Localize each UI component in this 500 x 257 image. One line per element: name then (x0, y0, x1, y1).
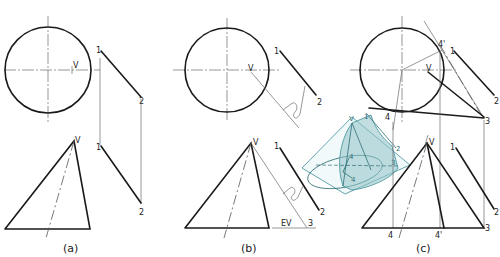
apex-label-top: V (73, 61, 79, 70)
apex-label-front: V (429, 138, 435, 147)
point-4p-label-top: 4' (438, 40, 445, 49)
apex-label-top: V (426, 64, 432, 73)
line-1-2-front (101, 146, 141, 203)
point-2-label-front: 2 (494, 208, 499, 217)
panel-a-front-view: V 1 2 (5, 136, 144, 238)
parallel-through-apex (251, 72, 299, 128)
radial-line-4 (393, 70, 402, 130)
point-2-label-top: 2 (494, 97, 499, 106)
parallel-symbol-front (283, 186, 303, 200)
point-2-label-front: 2 (320, 208, 325, 217)
line-1-2-front (456, 148, 494, 209)
cone-element-line (46, 141, 74, 238)
cone-front-triangle (5, 141, 90, 229)
plane-trace-line (424, 21, 484, 118)
point-2-label-top: 2 (317, 98, 322, 107)
pictorial-point-4-label: 4 (349, 153, 354, 161)
apex-label-top: V (248, 64, 254, 73)
cone-element-line (399, 143, 427, 238)
point-1-label-front: 1 (450, 143, 455, 152)
apex-label-front: V (75, 136, 81, 145)
point-1-label-front: 1 (96, 143, 101, 152)
pictorial-apex-label: V (349, 115, 354, 123)
cone-front-triangle (185, 143, 269, 228)
apex-label-front: V (253, 138, 259, 147)
pictorial-point-1-label: 1 (364, 113, 368, 121)
point-2-label-top: 2 (139, 97, 144, 106)
cone-line-intersection-figure: V 1 2 V 1 2 (a) V 1 2 (0, 0, 500, 257)
point-3-label-front: 3 (485, 224, 490, 233)
pictorial-point-4b-label: 4 (351, 176, 356, 184)
point-4-label-front: 4 (388, 231, 393, 240)
panel-a: V 1 2 V 1 2 (a) (4, 16, 144, 255)
panel-c-top-view: V 4' 4 1 2 3 (350, 16, 499, 130)
construction-dash-line (440, 45, 483, 118)
caption-c: (c) (416, 242, 431, 255)
point-1-label-top: 1 (274, 47, 279, 56)
cone-element-line (224, 143, 251, 238)
point-1-label-front: 1 (274, 142, 279, 151)
edge-view-label: EV (281, 219, 292, 228)
point-2-label-front: 2 (139, 208, 144, 217)
point-4-label-top: 4 (385, 113, 390, 122)
line-1-2-top (454, 51, 494, 95)
point-3-label-front: 3 (308, 219, 313, 228)
pictorial-point-2-label: 2 (396, 145, 400, 153)
caption-a: (a) (63, 242, 78, 255)
panel-b: V 1 2 V 1 2 EV 3 (b) (173, 18, 325, 255)
point-1-label-top: 1 (450, 47, 455, 56)
caption-b: (b) (241, 242, 257, 255)
point-4p-label-front: 4' (435, 231, 442, 240)
point-3-label-top: 3 (485, 117, 490, 126)
line-1-2-top (280, 51, 316, 95)
panel-b-front-view: V 1 2 EV 3 (185, 138, 325, 238)
radial-line-4p (402, 50, 442, 70)
line-1-2-top (101, 51, 141, 97)
point-1-label-top: 1 (96, 46, 101, 55)
panel-a-top-view: V 1 2 (4, 16, 144, 122)
panel-b-top-view: V 1 2 (173, 18, 322, 128)
